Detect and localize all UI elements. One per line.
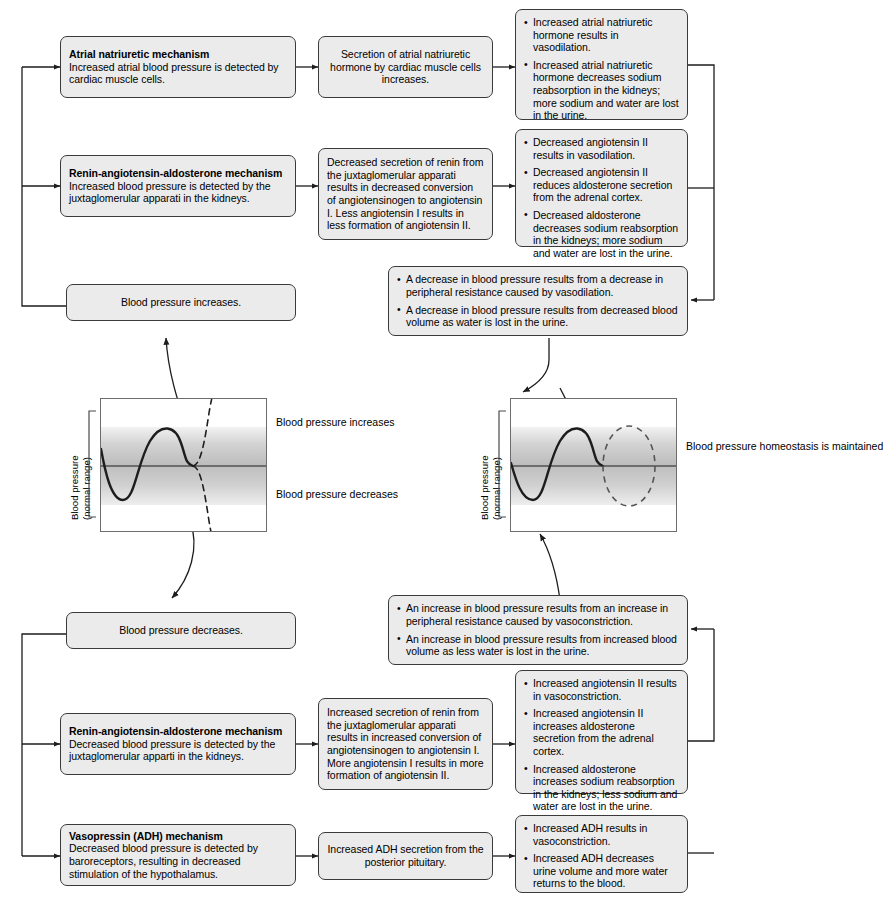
- bullet-list: A decrease in blood pressure results fro…: [397, 273, 679, 328]
- plot-area-right: [510, 398, 677, 532]
- box-renin-effects-lower[interactable]: Increased angiotensin II results in vaso…: [515, 670, 688, 794]
- list-item: Increased angiotensin II increases aldos…: [524, 707, 679, 757]
- box-heading: Atrial natriuretic mechanism: [69, 48, 287, 61]
- box-renin-mechanism-upper[interactable]: Renin-angiotensin-aldosterone mechanism …: [60, 155, 296, 217]
- box-adh-step[interactable]: Increased ADH secretion from the posteri…: [318, 832, 493, 880]
- box-renin-step-lower[interactable]: Increased secretion of renin from the ju…: [318, 698, 493, 790]
- box-body: Increased secretion of renin from the ju…: [327, 706, 484, 782]
- box-atrial-effects[interactable]: Increased atrial natriuretic hormone res…: [515, 9, 688, 120]
- y-axis-label-line1: Blood pressure: [479, 455, 490, 520]
- list-item: Decreased aldosterone decreases sodium r…: [524, 209, 679, 259]
- list-item: Increased aldosterone increases sodium r…: [524, 763, 679, 813]
- bullet-list: Increased ADH results in vasoconstrictio…: [524, 822, 679, 890]
- list-item: Decreased angiotensin II reduces aldoste…: [524, 166, 679, 204]
- list-item: Increased ADH results in vasoconstrictio…: [524, 822, 679, 847]
- y-axis-label-line1: Blood pressure: [69, 455, 80, 520]
- plot-area-left: [100, 398, 267, 532]
- box-upper-outcome[interactable]: A decrease in blood pressure results fro…: [388, 266, 688, 336]
- box-body: Decreased blood pressure is detected by …: [69, 738, 275, 763]
- list-item: Increased angiotensin II results in vaso…: [524, 677, 679, 702]
- box-heading: Renin-angiotensin-aldosterone mechanism: [69, 167, 287, 180]
- annotation-bp-increases: Blood pressure increases: [276, 416, 394, 429]
- list-item: Increased ADH decreases urine volume and…: [524, 852, 679, 890]
- box-renin-step-upper[interactable]: Decreased secretion of renin from the ju…: [318, 148, 493, 240]
- list-item: An increase in blood pressure results fr…: [397, 633, 679, 658]
- list-item: A decrease in blood pressure results fro…: [397, 273, 679, 298]
- bullet-list: Decreased angiotensin II results in vaso…: [524, 136, 679, 259]
- box-body: Increased blood pressure is detected by …: [69, 180, 271, 205]
- bullet-list: Increased angiotensin II results in vaso…: [524, 677, 679, 813]
- box-heading: Vasopressin (ADH) mechanism: [69, 830, 287, 843]
- box-vasopressin-mechanism[interactable]: Vasopressin (ADH) mechanism Decreased bl…: [60, 824, 296, 886]
- normal-range-bracket: [86, 410, 98, 518]
- box-renin-effects-upper[interactable]: Decreased angiotensin II results in vaso…: [515, 129, 688, 247]
- list-item: A decrease in blood pressure results fro…: [397, 304, 679, 329]
- box-blood-pressure-decreases[interactable]: Blood pressure decreases.: [66, 612, 296, 649]
- box-renin-mechanism-lower[interactable]: Renin-angiotensin-aldosterone mechanism …: [60, 713, 296, 775]
- box-heading: Renin-angiotensin-aldosterone mechanism: [69, 725, 287, 738]
- box-body: Blood pressure increases.: [121, 296, 241, 309]
- upper-right-trunk-a: [688, 65, 714, 300]
- box-atrial-step[interactable]: Secretion of atrial natriuretic hormone …: [318, 36, 493, 98]
- normal-range-bracket: [496, 410, 508, 518]
- list-item: Increased atrial natriuretic hormone dec…: [524, 59, 679, 122]
- box-body: Increased atrial blood pressure is detec…: [69, 61, 279, 86]
- box-body: Secretion of atrial natriuretic hormone …: [327, 48, 484, 86]
- list-item: Increased atrial natriuretic hormone res…: [524, 16, 679, 54]
- box-body: Blood pressure decreases.: [119, 624, 243, 637]
- arrow-upper-outcome-to-left-graph: [523, 338, 549, 392]
- bullet-list: An increase in blood pressure results fr…: [397, 602, 679, 657]
- trace-right: [511, 399, 677, 532]
- box-body: Decreased secretion of renin from the ju…: [327, 156, 484, 232]
- trace-left: [101, 399, 267, 532]
- bullet-list: Increased atrial natriuretic hormone res…: [524, 16, 679, 122]
- box-atrial-natriuretic-mechanism[interactable]: Atrial natriuretic mechanism Increased a…: [60, 36, 296, 98]
- list-item: Decreased angiotensin II results in vaso…: [524, 136, 679, 161]
- box-adh-effects[interactable]: Increased ADH results in vasoconstrictio…: [515, 815, 688, 893]
- graph-right-panel: Blood pressure (normal range) Blood pres…: [468, 398, 758, 533]
- box-body: Decreased blood pressure is detected by …: [69, 842, 258, 879]
- arrow-lower-outcome-to-right-graph: [540, 534, 560, 600]
- list-item: An increase in blood pressure results fr…: [397, 602, 679, 627]
- graph-left-panel: Blood pressure (normal range) Blood pres…: [58, 398, 378, 533]
- box-blood-pressure-increases[interactable]: Blood pressure increases.: [66, 284, 296, 321]
- annotation-bp-decreases: Blood pressure decreases: [276, 488, 398, 501]
- lower-right-trunk-a: [688, 629, 714, 741]
- box-body: Increased ADH secretion from the posteri…: [327, 843, 484, 868]
- box-lower-outcome[interactable]: An increase in blood pressure results fr…: [388, 595, 688, 665]
- annotation-homeostasis-maintained: Blood pressure homeostasis is maintained: [686, 440, 883, 453]
